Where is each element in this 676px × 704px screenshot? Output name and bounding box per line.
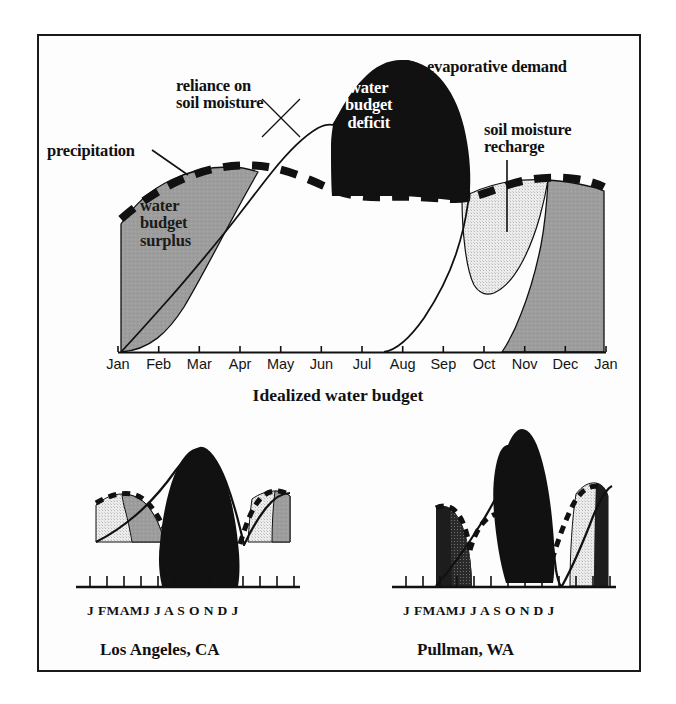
main-month-label-may-4: May: [267, 356, 294, 372]
main-month-label-nov-10: Nov: [512, 356, 538, 372]
label-precipitation: precipitation: [47, 142, 135, 159]
main-month-label-jun-5: Jun: [310, 356, 333, 372]
main-month-label-aug-7: Aug: [390, 356, 416, 372]
main-month-label-sep-8: Sep: [430, 356, 456, 372]
main-chart-month-axis: JanFebMarAprMayJunJulAugSepOctNovDecJan: [118, 356, 606, 376]
figure-root: precipitation reliance on soil moisture …: [0, 0, 676, 704]
label-soil-moisture-recharge: soil moisture recharge: [484, 121, 571, 156]
main-month-label-dec-11: Dec: [552, 356, 578, 372]
main-month-label-feb-1: Feb: [146, 356, 171, 372]
pullman-caption: Pullman, WA: [417, 640, 514, 660]
la-caption: Los Angeles, CA: [100, 640, 219, 660]
main-month-label-jul-6: Jul: [353, 356, 372, 372]
main-month-label-jan-0: Jan: [106, 356, 129, 372]
label-water-budget-deficit: water budget deficit: [345, 79, 392, 131]
label-water-budget-surplus: water budget surplus: [140, 197, 191, 249]
main-month-label-mar-2: Mar: [187, 356, 212, 372]
main-month-label-apr-3: Apr: [229, 356, 252, 372]
la-month-labels: J FMAMJ J A S O N D J: [87, 603, 239, 619]
main-chart-caption: Idealized water budget: [0, 385, 676, 406]
pullman-month-labels: J FMAMJ J A S O N D J: [403, 603, 555, 619]
main-month-label-jan-12: Jan: [594, 356, 617, 372]
main-month-label-oct-9: Oct: [473, 356, 496, 372]
label-reliance-on-soil-moisture: reliance on soil moisture: [176, 77, 263, 112]
label-evaporative-demand: evaporative demand: [427, 58, 567, 75]
